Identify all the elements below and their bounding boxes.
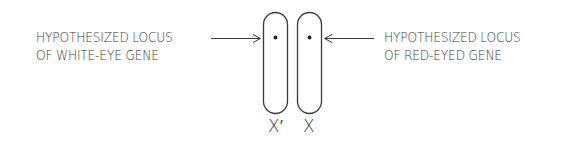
chromosome-x-prime bbox=[264, 13, 288, 114]
red-eyed-locus-annotation: HYPOTHESIZED LOCUS OF RED-EYED GENE bbox=[384, 28, 521, 64]
white-eye-locus-annotation: HYPOTHESIZED LOCUS OF WHITE-EYE GENE bbox=[36, 28, 173, 64]
chromosome-diagram bbox=[0, 0, 584, 144]
locus-dot-white-eye bbox=[274, 36, 278, 40]
annotation-line: HYPOTHESIZED LOCUS bbox=[36, 28, 173, 46]
arrow-left-icon bbox=[325, 35, 375, 43]
annotation-line: HYPOTHESIZED LOCUS bbox=[384, 28, 521, 46]
chromosome-x bbox=[298, 13, 322, 114]
chromosome-label-x-prime: X′ bbox=[268, 117, 283, 135]
annotation-line: OF WHITE-EYE GENE bbox=[36, 46, 173, 64]
annotation-line: OF RED-EYED GENE bbox=[384, 46, 521, 64]
arrow-right-icon bbox=[211, 35, 261, 43]
chromosome-label-x: X bbox=[303, 117, 315, 135]
locus-dot-red-eyed bbox=[308, 36, 312, 40]
